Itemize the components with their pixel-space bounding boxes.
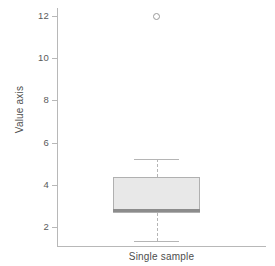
y-tick-label-12: 12: [9, 11, 49, 21]
x-axis-label: Single sample: [57, 251, 266, 262]
y-tick-2: [52, 227, 57, 228]
y-axis-title: Value axis: [14, 65, 25, 155]
y-tick-6: [52, 143, 57, 144]
y-tick-10: [52, 58, 57, 59]
y-tick-4: [52, 185, 57, 186]
whisker-cap-upper: [134, 159, 179, 160]
box-iqr: [113, 177, 200, 213]
y-tick-label-4: 4: [9, 180, 49, 190]
outlier-point: [153, 13, 160, 20]
median-line: [113, 209, 200, 212]
y-tick-label-2: 2: [9, 222, 49, 232]
whisker-lower: [157, 213, 158, 241]
boxplot-figure: 12 10 8 6 4 2 Value axis Single sample: [0, 0, 275, 266]
whisker-upper: [157, 159, 158, 177]
y-tick-12: [52, 16, 57, 17]
x-axis-line: [57, 246, 266, 247]
y-tick-8: [52, 100, 57, 101]
y-tick-label-10: 10: [9, 53, 49, 63]
whisker-cap-lower: [134, 241, 179, 242]
plot-area: 12 10 8 6 4 2 Value axis Single sample: [0, 0, 275, 266]
y-axis-line: [57, 8, 58, 246]
